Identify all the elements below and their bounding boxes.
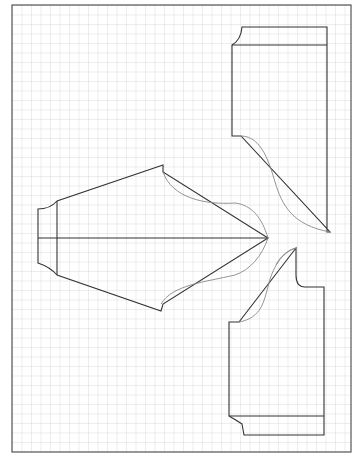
pattern-diagram xyxy=(0,0,358,461)
grid-paper xyxy=(12,5,351,452)
